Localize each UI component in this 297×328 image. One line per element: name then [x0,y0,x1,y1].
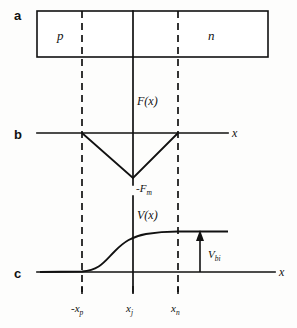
vbi-label: Vbi [208,248,221,263]
tick-label-xn-sub: n [176,308,180,317]
panel-letter-b: b [14,127,22,142]
tick-label-xj-sub: j [130,308,133,317]
tick-label-xj: xj [125,302,133,317]
tick-label-xp-base: -x [71,302,80,314]
tick-label-xn: xn [170,302,180,317]
panel-letter-a: a [14,8,22,23]
region-label-n: n [208,28,215,43]
region-label-p: p [56,28,64,43]
field-curve-label: F(x) [136,94,158,108]
figure-root: a p n b x F(x) -Fm c x V(x) Vbi [0,0,297,328]
potential-curve-label: V(x) [137,208,158,222]
potential-x-axis-label: x [278,265,285,279]
pn-junction-figure: a p n b x F(x) -Fm c x V(x) Vbi [0,0,297,328]
device-body-rect [37,11,268,57]
tick-label-xp: -xp [71,302,84,317]
tick-label-xp-sub: p [79,308,84,317]
field-x-axis-label: x [231,126,238,140]
vbi-label-sub: bi [215,254,221,263]
panel-letter-c: c [14,266,21,281]
field-minimum-label-sub: m [146,188,152,197]
field-minimum-label: -Fm [136,182,152,197]
field-minimum-label-base: -F [136,182,147,194]
field-curve-triangle [82,133,178,178]
